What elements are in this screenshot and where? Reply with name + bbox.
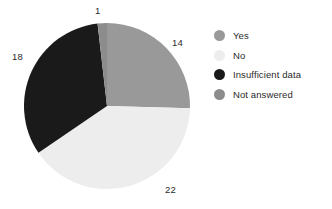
legend-label-not-answered: Not answered <box>233 90 293 100</box>
slice-value-label-not-answered: 1 <box>95 6 100 16</box>
chart-legend: Yes No Insufficient data Not answered <box>214 26 332 104</box>
slice-value-label-yes: 14 <box>172 38 183 48</box>
legend-item-insufficient-data: Insufficient data <box>214 65 332 85</box>
legend-label-yes: Yes <box>233 31 249 41</box>
legend-swatch-icon-no <box>214 50 225 61</box>
slice-value-label-insufficient-data: 18 <box>12 52 23 62</box>
pie-slice <box>107 23 190 108</box>
legend-swatch-icon-not-answered <box>214 89 225 100</box>
legend-label-insufficient-data: Insufficient data <box>233 70 301 80</box>
legend-item-no: No <box>214 46 332 66</box>
pie-svg <box>0 0 215 209</box>
legend-swatch-icon-insufficient-data <box>214 69 225 80</box>
pie-slices <box>24 23 190 189</box>
legend-item-yes: Yes <box>214 26 332 46</box>
pie-plot-area: 1 14 18 22 <box>0 0 215 209</box>
slice-value-label-no: 22 <box>165 185 176 195</box>
legend-swatch-icon-yes <box>214 30 225 41</box>
pie-chart-figure: 1 14 18 22 Yes No Insufficient data Not … <box>0 0 332 209</box>
legend-item-not-answered: Not answered <box>214 85 332 105</box>
legend-label-no: No <box>233 51 245 61</box>
